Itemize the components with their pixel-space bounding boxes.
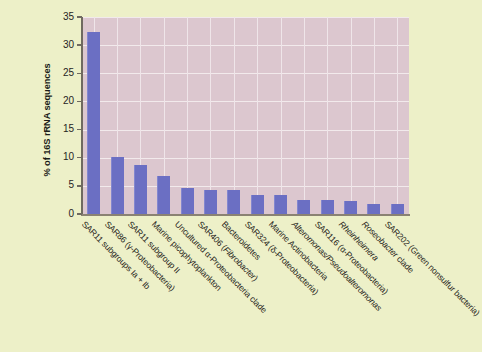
y-tick-mark bbox=[77, 16, 82, 18]
bar bbox=[251, 195, 264, 214]
gridline-y-10 bbox=[82, 158, 409, 159]
x-axis-label: Uncultured α-Proteobacteria clade bbox=[173, 219, 269, 315]
gridline-y-20 bbox=[82, 101, 409, 102]
gridline-x-7 bbox=[257, 17, 258, 214]
bar bbox=[134, 165, 147, 214]
bar bbox=[391, 204, 404, 214]
y-tick-mark bbox=[77, 44, 82, 46]
bar bbox=[87, 32, 100, 214]
y-tick-mark bbox=[77, 129, 82, 131]
bar bbox=[321, 200, 334, 214]
x-axis-label: SAR11 subgroups Ia + Ib bbox=[80, 219, 152, 291]
gridline-x-4 bbox=[187, 17, 188, 214]
gridline-y-25 bbox=[82, 73, 409, 74]
gridline-x-6 bbox=[234, 17, 235, 214]
gridline-y-5 bbox=[82, 186, 409, 187]
bar bbox=[344, 201, 357, 214]
gridline-y-15 bbox=[82, 130, 409, 131]
bar bbox=[274, 195, 287, 214]
bar bbox=[297, 200, 310, 214]
y-tick-label: 30 bbox=[44, 39, 74, 50]
bar bbox=[181, 188, 194, 214]
bar bbox=[227, 190, 240, 214]
y-tick-label: 5 bbox=[44, 179, 74, 190]
gridline-x-9 bbox=[304, 17, 305, 214]
y-tick-label: 10 bbox=[44, 151, 74, 162]
x-axis-label: Bacteroidetes bbox=[220, 219, 263, 262]
bar bbox=[367, 204, 380, 214]
x-axis-label: SAR11 subgroup II bbox=[126, 219, 182, 275]
x-axis-label: SAR406 (Fibrobacter) bbox=[196, 219, 260, 283]
gridline-x-13 bbox=[397, 17, 398, 214]
bar bbox=[111, 157, 124, 214]
gridline-x-12 bbox=[374, 17, 375, 214]
y-tick-label: 0 bbox=[44, 208, 74, 219]
x-axis-label: Rheinheimera bbox=[337, 219, 381, 263]
gridline-y-35 bbox=[82, 17, 409, 18]
x-axis-label: SAR116 (α-Proteobacteria) bbox=[313, 219, 390, 296]
y-tick-mark bbox=[77, 185, 82, 187]
x-axis-label: SAR86 (γ-Proteobacteria) bbox=[103, 219, 177, 293]
gridline-x-8 bbox=[281, 17, 282, 214]
x-axis-label: SAR324 (δ-Proteobacteria) bbox=[243, 219, 321, 297]
y-tick-label: 25 bbox=[44, 67, 74, 78]
plot-area bbox=[82, 17, 409, 214]
y-tick-label: 35 bbox=[44, 11, 74, 22]
x-axis-label: Marine picophytoplankton bbox=[150, 219, 224, 293]
gridline-x-5 bbox=[210, 17, 211, 214]
x-axis-line bbox=[81, 214, 410, 216]
x-axis-label: Marine Actinobacteria bbox=[266, 219, 329, 282]
y-tick-mark bbox=[77, 213, 82, 215]
y-tick-mark bbox=[77, 73, 82, 75]
gridline-x-10 bbox=[327, 17, 328, 214]
x-axis-label: SAR202 (Green nonsulfur bacteria) bbox=[383, 219, 482, 318]
gridline-x-11 bbox=[351, 17, 352, 214]
bar bbox=[157, 176, 170, 214]
y-tick-label: 15 bbox=[44, 123, 74, 134]
gridline-y-30 bbox=[82, 45, 409, 46]
y-tick-mark bbox=[77, 157, 82, 159]
bar bbox=[204, 190, 217, 214]
y-tick-mark bbox=[77, 101, 82, 103]
x-axis-label: Roseobacter clade bbox=[360, 219, 416, 275]
x-axis-label: Alteromonas/Pseudoalteromonas bbox=[290, 219, 384, 313]
y-tick-label: 20 bbox=[44, 95, 74, 106]
